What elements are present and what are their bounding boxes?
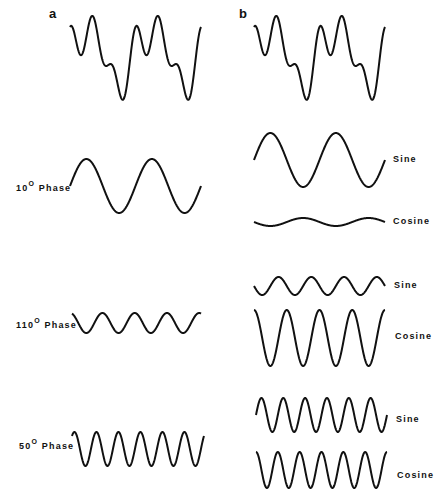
- fourier-figure: a b 10O Phase 110O Phase 50O Phase Sine …: [0, 0, 448, 504]
- wave-b-composite: [254, 16, 385, 100]
- wave-b-cosine-2: [254, 310, 385, 366]
- wave-b-sine-2: [254, 277, 385, 295]
- wave-a-110deg: [72, 313, 201, 333]
- label-cosine-3: Cosine: [397, 470, 434, 480]
- label-cosine-1: Cosine: [393, 216, 430, 226]
- wave-b-sine-3: [256, 398, 387, 432]
- wave-a-50deg: [72, 432, 204, 466]
- label-10-phase: 10O Phase: [16, 181, 71, 193]
- wave-b-cosine-1: [254, 218, 385, 226]
- waveform-canvas: [0, 0, 448, 504]
- label-cosine-2: Cosine: [395, 331, 432, 341]
- label-sine-2: Sine: [394, 280, 418, 290]
- label-sine-1: Sine: [393, 154, 417, 164]
- wave-a-composite: [70, 16, 201, 100]
- label-50-phase: 50O Phase: [19, 439, 74, 451]
- wave-b-sine-1: [254, 133, 385, 187]
- label-sine-3: Sine: [396, 414, 420, 424]
- panel-label-a: a: [49, 6, 56, 21]
- panel-label-b: b: [239, 6, 247, 21]
- wave-a-10deg: [70, 159, 201, 213]
- label-110-phase: 110O Phase: [16, 318, 77, 330]
- wave-b-cosine-3: [256, 452, 387, 488]
